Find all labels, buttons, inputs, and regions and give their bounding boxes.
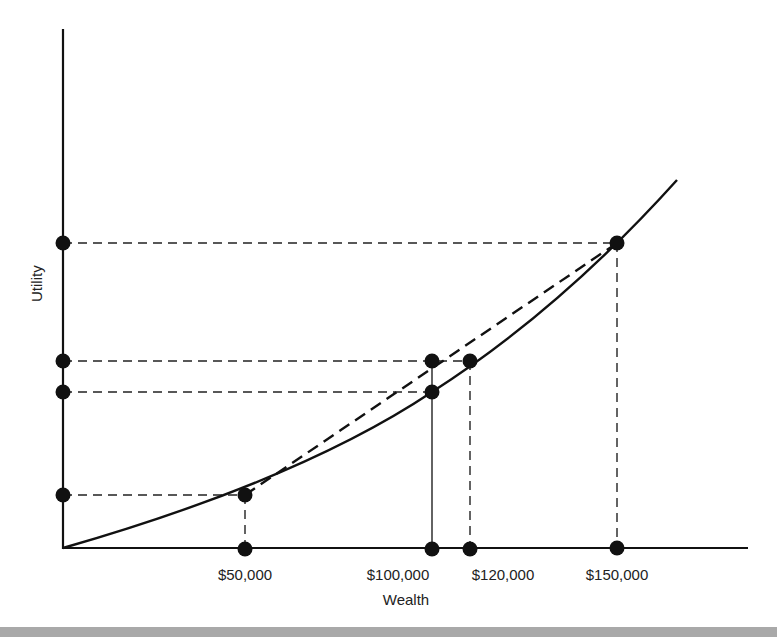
tick-label-120000: $120,000 <box>472 566 535 583</box>
chord-line <box>245 243 617 495</box>
x-axis-label: Wealth <box>383 591 429 608</box>
tick-label-150000: $150,000 <box>586 566 649 583</box>
bottom-band <box>0 627 777 637</box>
tick-label-50000: $50,000 <box>218 566 272 583</box>
utility-curve <box>63 180 677 548</box>
horizontal-guides <box>63 243 617 495</box>
y-axis-label: Utility <box>28 265 45 302</box>
data-points <box>56 236 625 557</box>
utility-diagram <box>0 0 777 627</box>
tick-label-100000: $100,000 <box>367 566 430 583</box>
